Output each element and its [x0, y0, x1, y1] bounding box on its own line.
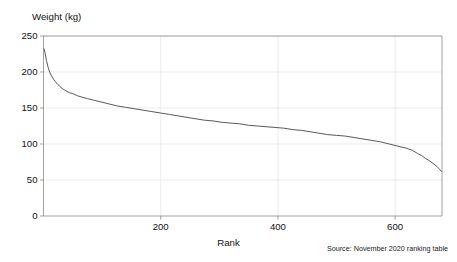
y-tick-label: 200 [21, 66, 37, 77]
y-tick-label: 250 [21, 30, 37, 41]
x-tick-label: 400 [270, 221, 286, 232]
y-tick-labels-group: 050100150200250 [21, 30, 37, 221]
tick-marks-group [40, 36, 395, 220]
gridlines-group [44, 36, 443, 216]
line-chart-plot: 050100150200250 200400600 [0, 0, 457, 262]
y-tick-label: 100 [21, 138, 37, 149]
axis-lines-group [44, 36, 443, 216]
data-series-group [44, 49, 441, 171]
series-line [44, 49, 441, 171]
y-tick-label: 50 [27, 174, 38, 185]
x-tick-label: 600 [387, 221, 403, 232]
chart-figure: Weight (kg) 050100150200250 200400600 Ra… [0, 0, 457, 262]
x-tick-label: 200 [153, 221, 169, 232]
y-tick-label: 150 [21, 102, 37, 113]
y-tick-label: 0 [32, 210, 37, 221]
source-note: Source: November 2020 ranking table [327, 244, 448, 253]
x-tick-labels-group: 200400600 [153, 221, 403, 232]
